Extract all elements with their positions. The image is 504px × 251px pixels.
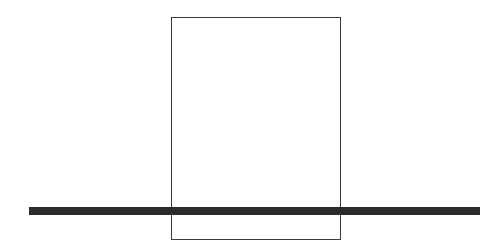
diagram-canvas xyxy=(0,0,504,251)
thick-horizontal-line xyxy=(29,207,480,215)
